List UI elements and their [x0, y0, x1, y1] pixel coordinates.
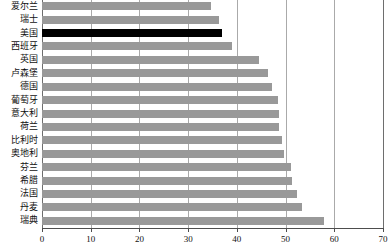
tick-label: 70	[368, 234, 392, 245]
tick-mark	[237, 228, 238, 232]
tick-label: 60	[319, 234, 349, 245]
category-label: 意大利	[11, 108, 38, 119]
bar	[42, 16, 219, 24]
bar	[42, 136, 282, 144]
bar	[42, 163, 291, 171]
bar	[42, 69, 268, 77]
bar	[42, 177, 292, 185]
bar	[42, 190, 297, 198]
bar	[42, 123, 279, 131]
category-label: 瑞士	[20, 14, 38, 25]
bar-chart: 爱尔兰瑞士美国西班牙英国卢森堡德国葡萄牙意大利荷兰比利时奥地利芬兰希腊法国丹麦瑞…	[0, 0, 392, 246]
tick-mark	[139, 228, 140, 232]
bar	[42, 2, 211, 10]
tick-label: 20	[124, 234, 154, 245]
tick-mark	[286, 228, 287, 232]
category-label: 希腊	[20, 175, 38, 186]
tick-label: 0	[27, 234, 57, 245]
category-label: 比利时	[11, 135, 38, 146]
category-label: 西班牙	[11, 41, 38, 52]
category-label: 丹麦	[20, 202, 38, 213]
bar	[42, 29, 222, 37]
tick-mark	[334, 228, 335, 232]
bar	[42, 56, 259, 64]
bar	[42, 110, 279, 118]
category-label: 英国	[20, 54, 38, 65]
tick-mark	[188, 228, 189, 232]
tick-label: 50	[271, 234, 301, 245]
category-label: 瑞典	[20, 215, 38, 226]
plot-area	[42, 0, 383, 228]
bar	[42, 203, 302, 211]
gridline-70	[383, 0, 384, 228]
category-label: 德国	[20, 81, 38, 92]
bar	[42, 42, 232, 50]
tick-label: 30	[173, 234, 203, 245]
category-label: 芬兰	[20, 162, 38, 173]
bar	[42, 96, 278, 104]
category-label: 葡萄牙	[11, 95, 38, 106]
category-label: 奥地利	[11, 148, 38, 159]
category-label: 荷兰	[20, 121, 38, 132]
category-label: 法国	[20, 188, 38, 199]
category-label: 卢森堡	[11, 68, 38, 79]
tick-mark	[383, 228, 384, 232]
bar	[42, 217, 324, 225]
x-axis-ticks: 010203040506070	[42, 228, 383, 246]
bar	[42, 150, 284, 158]
tick-mark	[91, 228, 92, 232]
tick-label: 40	[222, 234, 252, 245]
tick-label: 10	[76, 234, 106, 245]
category-label: 爱尔兰	[11, 1, 38, 12]
bar	[42, 83, 272, 91]
category-label: 美国	[20, 28, 38, 39]
tick-mark	[42, 228, 43, 232]
bar-series	[42, 0, 383, 228]
category-axis-labels: 爱尔兰瑞士美国西班牙英国卢森堡德国葡萄牙意大利荷兰比利时奥地利芬兰希腊法国丹麦瑞…	[0, 0, 40, 228]
